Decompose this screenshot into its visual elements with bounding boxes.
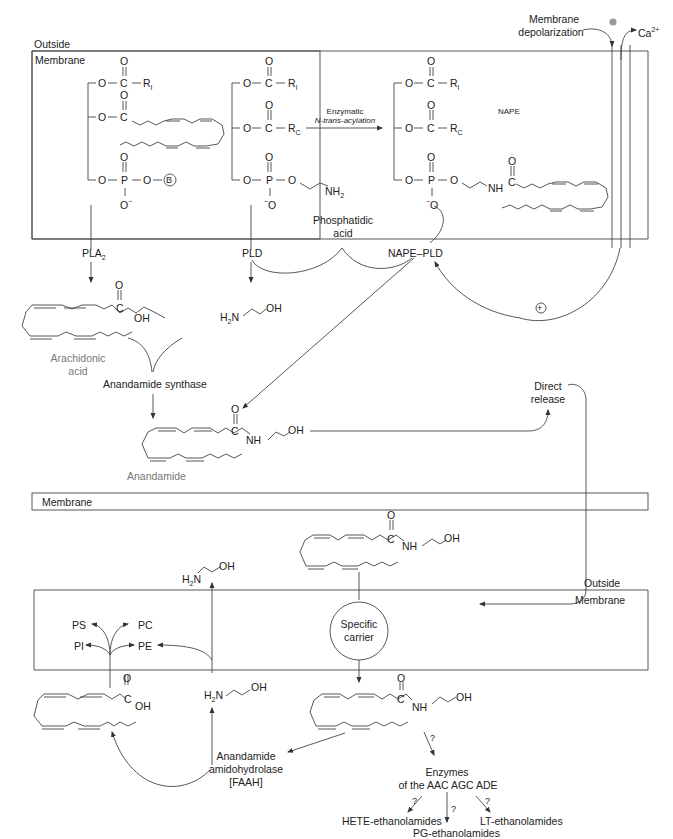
enzymes-label-2: of the AAC AGC ADE xyxy=(396,779,500,791)
phosphatidic-acid-label-1: Phosphatidic xyxy=(308,214,378,226)
atom-o: O xyxy=(115,280,123,291)
product-pc: PC xyxy=(138,619,153,631)
enzyme-anandamide-synthase: Anandamide synthase xyxy=(103,378,207,390)
question-mark: ? xyxy=(430,732,435,744)
atom-oh: OH xyxy=(134,313,150,324)
atom-o: O xyxy=(427,56,435,67)
anandamide-label: Anandamide xyxy=(127,470,186,482)
product-hete-ethanolamides: HETE-ethanolamides xyxy=(342,815,442,827)
depolarization-label-2: depolarization xyxy=(518,26,584,38)
atom-o: O xyxy=(387,510,395,521)
atom-o: O xyxy=(265,56,273,67)
direct-release-label-1: Direct xyxy=(523,380,573,392)
atom-o: O xyxy=(405,123,413,134)
atom-c: C xyxy=(231,426,239,437)
atom-r1: RI xyxy=(288,78,298,93)
atom-o: O xyxy=(265,100,273,111)
question-mark: ? xyxy=(451,803,456,815)
atom-o: O xyxy=(265,152,273,163)
faah-label-2: amidohydrolase xyxy=(206,763,286,775)
atom-rc: RC xyxy=(450,123,463,138)
ethanolamine-oh: OH xyxy=(266,303,282,314)
atom-c: C xyxy=(124,694,132,705)
atom-p: P xyxy=(428,175,435,186)
atom-o: O xyxy=(288,175,296,186)
ethanolamine-oh: OH xyxy=(251,682,267,693)
product-ps: PS xyxy=(72,619,86,631)
atom-c: C xyxy=(120,112,128,123)
specific-carrier-label-2: carrier xyxy=(330,631,388,643)
atom-r1: RI xyxy=(143,78,153,93)
atom-o: O xyxy=(231,404,239,415)
atom-oh: OH xyxy=(444,533,460,544)
atom-o: O xyxy=(243,78,251,89)
question-mark: ? xyxy=(485,795,490,807)
atom-o: O xyxy=(98,78,106,89)
nape-label: NAPE xyxy=(498,107,520,117)
faah-label-3: [FAAH] xyxy=(206,776,286,788)
enzyme-pld: PLD xyxy=(242,247,262,259)
enzyme-pla2: PLA2 xyxy=(82,247,106,264)
atom-c: C xyxy=(120,78,128,89)
enzyme-nape-pld: NAPE–PLD xyxy=(388,247,443,259)
atom-o: O xyxy=(98,112,106,123)
atom-c: C xyxy=(265,78,273,89)
ethanolamine-oh: OH xyxy=(219,561,235,572)
amide-nh: NH xyxy=(488,183,503,194)
atom-o: O xyxy=(243,123,251,134)
region-membrane-middle: Membrane xyxy=(42,496,92,508)
atom-o: O xyxy=(120,56,128,67)
amide-nh: NH xyxy=(246,435,261,446)
arachidonic-acid-label-2: acid xyxy=(38,365,118,377)
atom-o: O xyxy=(143,175,151,186)
atom-p: P xyxy=(266,175,273,186)
direct-release-label-2: release xyxy=(523,393,573,405)
enzymes-label-1: Enzymes xyxy=(410,766,484,778)
atom-oh: OH xyxy=(456,692,472,703)
plus-sign: + xyxy=(537,302,542,314)
reaction-label-transacylation: N-trans-acylation xyxy=(300,116,390,126)
atom-o: O xyxy=(120,90,128,101)
atom-c: C xyxy=(427,123,435,134)
product-pg-ethanolamides: PG-ethanolamides xyxy=(413,827,500,839)
specific-carrier-label-1: Specific xyxy=(330,618,388,630)
atom-c: C xyxy=(427,78,435,89)
atom-c: C xyxy=(116,303,124,314)
amide-nh: NH xyxy=(412,702,427,713)
atom-o: O xyxy=(243,175,251,186)
amine-nh2: NH2 xyxy=(325,186,344,201)
atom-o-minus: −O xyxy=(264,196,276,211)
top-membrane-box xyxy=(32,51,320,239)
atom-p: P xyxy=(121,175,128,186)
atom-c: C xyxy=(508,177,516,188)
faah-label-1: Anandamide xyxy=(206,750,286,762)
arachidonic-acid-label-1: Arachidonic xyxy=(38,352,118,364)
ethanolamine-h2n: H2N xyxy=(204,690,223,705)
ethanolamine-h2n: H2N xyxy=(220,312,239,327)
base-b-circled: B xyxy=(166,175,172,186)
amide-nh: NH xyxy=(402,541,417,552)
depolarization-label-1: Membrane xyxy=(526,13,582,25)
atom-o-minus: O− xyxy=(120,196,132,211)
atom-o: O xyxy=(123,673,131,684)
product-pe: PE xyxy=(138,640,152,652)
atom-c: C xyxy=(265,123,273,134)
atom-o: O xyxy=(427,100,435,111)
atom-o: O xyxy=(450,175,458,186)
phosphatidic-acid-label-2: acid xyxy=(308,227,378,239)
question-mark: ? xyxy=(412,795,417,807)
region-outside-bottom: Outside xyxy=(584,577,620,589)
atom-oh: OH xyxy=(135,701,151,712)
atom-oh: OH xyxy=(288,425,304,436)
product-pi: PI xyxy=(74,640,84,652)
atom-o-minus: −O xyxy=(426,196,438,211)
region-outside-top: Outside xyxy=(34,38,70,50)
atom-rc: RC xyxy=(288,123,301,138)
region-membrane-top: Membrane xyxy=(35,54,85,66)
atom-c: C xyxy=(387,534,395,545)
atom-o: O xyxy=(405,78,413,89)
calcium-ion: Ca2+ xyxy=(638,24,659,39)
product-lt-ethanolamides: LT-ethanolamides xyxy=(480,815,563,827)
atom-r1: RI xyxy=(450,78,460,93)
atom-o: O xyxy=(508,156,516,167)
